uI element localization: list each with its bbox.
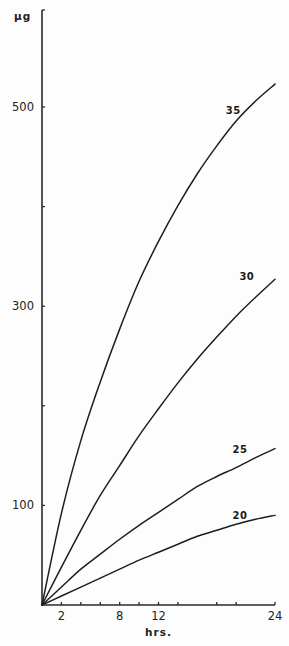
y-ticks: 100300500: [12, 100, 45, 512]
x-tick-label: 2: [58, 609, 65, 623]
y-axis-title: μg: [14, 10, 31, 22]
x-axis-title: hrs.: [145, 626, 172, 638]
y-tick-label: 300: [12, 299, 34, 313]
y-tick-label: 100: [12, 498, 34, 512]
series-label-25: 25: [233, 444, 248, 455]
curve-30: [42, 279, 275, 605]
series-label-20: 20: [233, 510, 248, 521]
x-tick-label: 24: [268, 609, 283, 623]
curve-25: [42, 449, 275, 605]
series-label-35: 35: [226, 105, 241, 116]
curve-20: [42, 515, 275, 605]
curve-35: [42, 84, 275, 605]
series-label-30: 30: [239, 271, 254, 282]
x-tick-label: 8: [116, 609, 123, 623]
line-chart: 100300500 281224 35302520 μg hrs.: [0, 0, 289, 646]
y-tick-label: 500: [12, 100, 34, 114]
x-tick-label: 12: [151, 609, 166, 623]
curves: 35302520: [42, 84, 275, 605]
